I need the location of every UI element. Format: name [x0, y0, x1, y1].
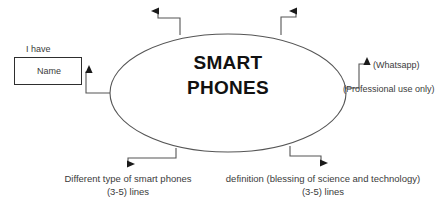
diagram-canvas: SMARTPHONES I have Name (Whatsapp) (Prof…: [0, 0, 442, 200]
connector-types: [128, 148, 176, 164]
definition-note-line-2: (3-5) lines: [204, 185, 442, 198]
name-box[interactable]: Name: [14, 57, 82, 85]
whatsapp-label: (Whatsapp): [373, 60, 420, 71]
connector-top-right: [281, 11, 296, 35]
connector-definition: [290, 146, 321, 163]
connector-name: [86, 72, 110, 93]
name-box-label: Name: [15, 66, 83, 76]
professional-use-label: (Professional use only): [343, 84, 435, 95]
connector-top-left: [158, 11, 180, 35]
i-have-caption: I have: [26, 44, 51, 55]
definition-note: definition (blessing of science and tech…: [204, 172, 442, 198]
diagram-connectors: [0, 0, 442, 200]
definition-note-line-1: definition (blessing of science and tech…: [204, 172, 442, 185]
center-node-label: SMARTPHONES: [110, 50, 346, 100]
